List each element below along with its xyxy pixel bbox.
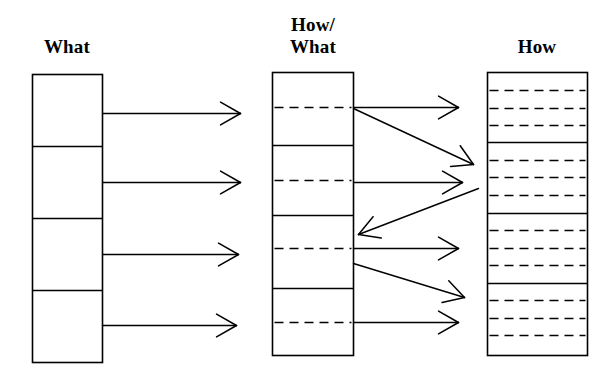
arrow-howwhat-to-how-3	[354, 171, 463, 194]
arrow-head-barb	[439, 323, 459, 334]
arrow-howwhat-to-how-6	[354, 264, 465, 303]
arrow-howwhat-to-how-7	[354, 311, 459, 334]
arrow-what-to-howwhat-3	[103, 243, 239, 266]
diagram-graphics	[0, 0, 613, 377]
arrow-head-barb	[443, 183, 463, 194]
arrow-head-barb	[439, 249, 459, 260]
arrow-head-barb	[219, 255, 239, 266]
column-box-how-what	[273, 73, 354, 356]
arrow-how-to-howwhat-4	[359, 189, 479, 239]
arrow-head-barb	[221, 183, 241, 194]
arrow-head-barb	[359, 235, 382, 239]
arrow-head-barb	[219, 243, 239, 254]
arrow-head-barb	[217, 314, 237, 325]
arrow-howwhat-to-how-2	[354, 109, 474, 167]
arrow-head-barb	[443, 171, 463, 182]
arrows-group	[103, 96, 479, 337]
arrow-head-barb	[439, 237, 459, 248]
arrow-shaft	[354, 264, 465, 298]
divider-lines-group	[33, 91, 588, 336]
diagram-canvas: What How/ What How	[0, 0, 613, 377]
arrow-head-barb	[439, 96, 459, 107]
arrow-head-barb	[439, 108, 459, 119]
arrow-shaft	[354, 109, 474, 165]
arrow-head-barb	[217, 326, 237, 337]
arrow-shaft	[359, 189, 479, 235]
arrow-head-barb	[442, 298, 464, 303]
arrow-what-to-howwhat-4	[103, 314, 237, 337]
arrow-howwhat-to-how-5	[354, 237, 459, 260]
arrow-head-barb	[451, 165, 474, 167]
arrow-what-to-howwhat-1	[103, 102, 241, 125]
arrow-what-to-howwhat-2	[103, 171, 241, 194]
column-boxes-group	[33, 73, 588, 363]
arrow-head-barb	[439, 311, 459, 322]
arrow-head-barb	[221, 114, 241, 125]
arrow-head-barb	[221, 171, 241, 182]
arrow-head-barb	[221, 102, 241, 113]
